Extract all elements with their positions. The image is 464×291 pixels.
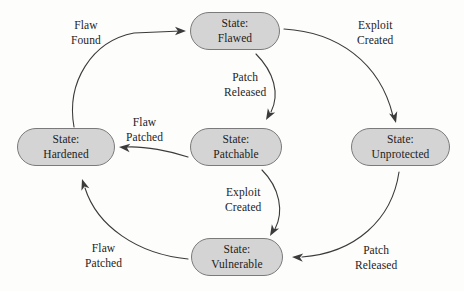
state-node-name: Hardened [43,147,89,162]
edge-label-flawed-to-patchable: PatchReleased [224,70,266,100]
state-node-unprotected[interactable]: State:Unprotected [351,128,450,166]
edge-label-line2: Found [71,33,101,48]
edge-label-unprotected-to-vulnerable: PatchReleased [355,243,397,273]
state-node-flawed[interactable]: State:Flawed [190,12,280,50]
state-node-name: Patchable [213,147,259,162]
edge-path-patchable-to-vulnerable [262,170,280,229]
edge-label-line1: Exploit [357,18,393,33]
state-node-vulnerable[interactable]: State:Vulnerable [191,238,283,276]
state-node-prefix: State: [223,132,250,147]
edge-label-line2: Patched [85,256,122,271]
state-diagram-canvas: State:FlawedState:HardenedState:Patchabl… [0,0,464,291]
edge-path-patchable-to-hardened [126,147,188,157]
edge-label-line1: Flaw [71,18,101,33]
state-node-prefix: State: [53,132,80,147]
edge-label-line1: Exploit [225,185,261,200]
arrowhead-flawed-to-unprotected [389,111,400,124]
edge-label-line1: Patch [355,243,397,258]
edge-label-line2: Released [224,85,266,100]
edge-label-flawed-to-unprotected: ExploitCreated [357,18,393,48]
edge-label-hardened-to-flawed: FlawFound [71,18,101,48]
state-node-prefix: State: [387,132,414,147]
state-node-prefix: State: [224,242,251,257]
edge-label-patchable-to-hardened: FlawPatched [126,115,163,145]
edge-label-line2: Released [355,258,397,273]
state-node-name: Vulnerable [211,257,262,272]
edge-label-line2: Patched [126,130,163,145]
arrowhead-patchable-to-vulnerable [266,224,279,238]
edge-label-line2: Created [225,200,261,215]
state-node-name: Flawed [218,31,252,46]
edge-label-patchable-to-vulnerable: ExploitCreated [225,185,261,215]
edge-label-line1: Patch [224,70,266,85]
state-node-name: Unprotected [372,147,430,162]
edge-label-vulnerable-to-hardened: FlawPatched [85,241,122,271]
arrowhead-flawed-to-patchable [262,108,275,122]
state-node-prefix: State: [222,16,249,31]
state-node-hardened[interactable]: State:Hardened [17,128,115,166]
edge-label-line1: Flaw [126,115,163,130]
arrowhead-unprotected-to-vulnerable [292,253,303,262]
edge-label-line1: Flaw [85,241,122,256]
state-node-patchable[interactable]: State:Patchable [190,128,282,166]
edge-label-line2: Created [357,33,393,48]
arrowhead-vulnerable-to-hardened [78,178,89,191]
